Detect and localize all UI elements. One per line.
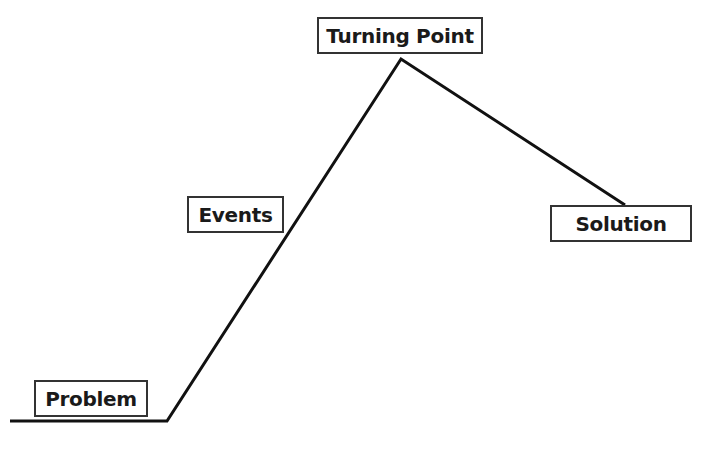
solution-label: Solution xyxy=(575,212,666,236)
problem-label: Problem xyxy=(45,387,137,411)
events-label-box: Events xyxy=(187,196,284,233)
plot-line xyxy=(10,59,625,421)
turning-point-label: Turning Point xyxy=(326,24,473,48)
solution-label-box: Solution xyxy=(550,205,692,242)
events-label: Events xyxy=(198,203,272,227)
turning-point-label-box: Turning Point xyxy=(317,17,483,54)
problem-label-box: Problem xyxy=(34,380,148,417)
